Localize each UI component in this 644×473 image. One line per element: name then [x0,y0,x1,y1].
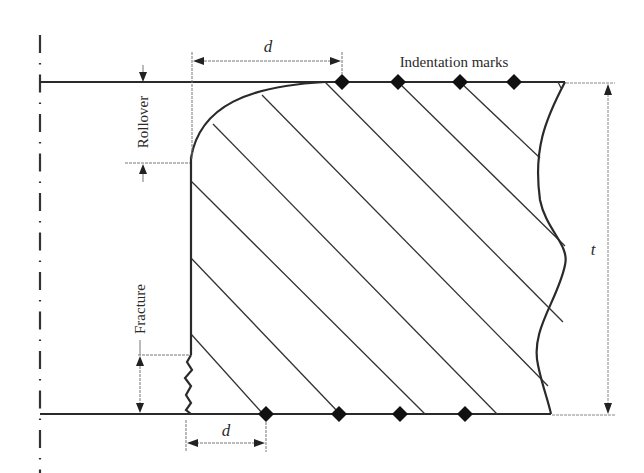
section-hatching [191,82,565,414]
diamond-marker-icon [258,406,274,422]
arrow-down-icon [604,403,612,414]
arrow-left-icon [193,57,204,65]
arrow-up-icon [604,84,612,95]
dimension-fracture [136,340,190,413]
fracture-zone-edge [185,355,192,414]
arrow-down-icon [139,72,147,82]
arrow-right-icon [254,439,265,447]
sheet-surfaces [40,82,565,414]
diamond-marker-icon [334,74,350,90]
arrow-up-icon [136,356,144,366]
label-fracture: Fracture [132,284,148,334]
label-d-bottom: d [222,421,231,440]
label-d-top: d [264,37,273,56]
diamond-marker-icon [392,406,408,422]
arrow-right-icon [330,57,341,65]
label-thickness: t [591,240,597,259]
label-indentation-marks: Indentation marks [400,54,509,70]
dimension-d-top [192,52,342,160]
dimension-thickness [552,83,615,415]
right-wavy-edge [537,82,566,414]
label-rollover: Rollover [135,96,151,149]
arrow-left-icon [187,439,198,447]
arrow-up-icon [139,164,147,174]
sheared-edge-diagram: d Indentation marks Rollover Fracture d … [0,0,644,473]
diamond-marker-icon [457,406,473,422]
arrow-down-icon [136,403,144,413]
diamond-marker-icon [506,74,522,90]
diamond-marker-icon [331,406,347,422]
